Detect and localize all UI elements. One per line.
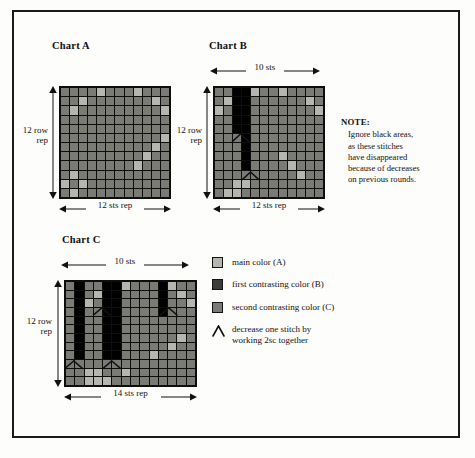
chart-a-sts-label: 12 sts rep bbox=[59, 200, 171, 210]
cell-second-contrasting bbox=[66, 291, 74, 299]
cell-second-contrasting bbox=[115, 125, 123, 133]
cell-second-contrasting bbox=[140, 343, 148, 351]
cell-second-contrasting bbox=[106, 134, 114, 142]
cell-main-color bbox=[177, 291, 185, 299]
cell-second-contrasting bbox=[224, 125, 232, 133]
cell-second-contrasting bbox=[134, 152, 142, 160]
cell-second-contrasting bbox=[106, 97, 114, 105]
cell-second-contrasting bbox=[61, 88, 69, 96]
cell-main-color bbox=[233, 180, 241, 188]
cell-second-contrasting bbox=[168, 334, 176, 342]
cell-second-contrasting bbox=[159, 317, 167, 325]
cell-second-contrasting bbox=[143, 106, 151, 114]
cell-second-contrasting bbox=[315, 88, 323, 96]
cell-second-contrasting bbox=[143, 88, 151, 96]
cell-second-contrasting bbox=[224, 152, 232, 160]
cell-main-color bbox=[242, 180, 250, 188]
cell-second-contrasting bbox=[85, 317, 93, 325]
cell-second-contrasting bbox=[279, 125, 287, 133]
cell-black-area bbox=[103, 343, 111, 351]
chart-a-row-dimension-arrow bbox=[47, 86, 59, 199]
legend-label-decrease-line1: decrease one stitch by bbox=[232, 324, 311, 335]
cell-second-contrasting bbox=[187, 308, 195, 316]
cell-second-contrasting bbox=[215, 189, 223, 197]
cell-second-contrasting bbox=[279, 134, 287, 142]
cell-second-contrasting bbox=[306, 143, 314, 151]
cell-second-contrasting bbox=[152, 189, 160, 197]
cell-second-contrasting bbox=[79, 88, 87, 96]
cell-main-color bbox=[70, 189, 78, 197]
cell-second-contrasting bbox=[112, 377, 120, 385]
cell-main-color bbox=[85, 377, 93, 385]
cell-black-area bbox=[75, 325, 83, 333]
cell-second-contrasting bbox=[150, 369, 158, 377]
cell-second-contrasting bbox=[61, 134, 69, 142]
cell-second-contrasting bbox=[97, 143, 105, 151]
cell-second-contrasting bbox=[269, 180, 277, 188]
cell-second-contrasting bbox=[260, 189, 268, 197]
cell-second-contrasting bbox=[306, 88, 314, 96]
cell-second-contrasting bbox=[61, 116, 69, 124]
cell-second-contrasting bbox=[79, 189, 87, 197]
cell-second-contrasting bbox=[85, 334, 93, 342]
cell-second-contrasting bbox=[150, 308, 158, 316]
cell-second-contrasting bbox=[297, 97, 305, 105]
cell-second-contrasting bbox=[159, 351, 167, 359]
cell-second-contrasting bbox=[131, 343, 139, 351]
cell-black-area bbox=[233, 125, 241, 133]
cell-second-contrasting bbox=[315, 180, 323, 188]
cell-main-color bbox=[103, 377, 111, 385]
cell-second-contrasting bbox=[177, 343, 185, 351]
cell-second-contrasting bbox=[122, 360, 130, 368]
cell-second-contrasting bbox=[161, 180, 169, 188]
cell-second-contrasting bbox=[140, 325, 148, 333]
cell-second-contrasting bbox=[122, 334, 130, 342]
cell-second-contrasting bbox=[88, 88, 96, 96]
cell-second-contrasting bbox=[168, 360, 176, 368]
cell-main-color bbox=[279, 152, 287, 160]
cell-second-contrasting bbox=[177, 377, 185, 385]
cell-second-contrasting bbox=[260, 116, 268, 124]
cell-second-contrasting bbox=[131, 291, 139, 299]
note-line-2: as these stitches bbox=[348, 141, 420, 152]
cell-black-area bbox=[159, 308, 167, 316]
cell-black-area bbox=[233, 106, 241, 114]
cell-second-contrasting bbox=[143, 116, 151, 124]
cell-second-contrasting bbox=[97, 161, 105, 169]
cell-second-contrasting bbox=[233, 143, 241, 151]
cell-second-contrasting bbox=[70, 152, 78, 160]
diagram-frame: Chart A 12 row rep 12 sts rep Chart bbox=[12, 10, 460, 438]
cell-main-color bbox=[97, 88, 105, 96]
cell-second-contrasting bbox=[251, 143, 259, 151]
cell-second-contrasting bbox=[140, 308, 148, 316]
cell-main-color bbox=[70, 106, 78, 114]
cell-second-contrasting bbox=[143, 171, 151, 179]
cell-second-contrasting bbox=[115, 152, 123, 160]
cell-second-contrasting bbox=[94, 325, 102, 333]
cell-second-contrasting bbox=[61, 125, 69, 133]
cell-second-contrasting bbox=[306, 106, 314, 114]
cell-second-contrasting bbox=[315, 189, 323, 197]
cell-second-contrasting bbox=[122, 325, 130, 333]
cell-second-contrasting bbox=[177, 360, 185, 368]
cell-second-contrasting bbox=[150, 334, 158, 342]
legend-item-decrease: decrease one stitch by working 2sc toget… bbox=[212, 324, 442, 347]
cell-second-contrasting bbox=[269, 171, 277, 179]
cell-second-contrasting bbox=[297, 88, 305, 96]
cell-second-contrasting bbox=[70, 97, 78, 105]
cell-second-contrasting bbox=[103, 360, 111, 368]
cell-second-contrasting bbox=[140, 317, 148, 325]
cell-second-contrasting bbox=[279, 97, 287, 105]
cell-second-contrasting bbox=[106, 171, 114, 179]
cell-second-contrasting bbox=[97, 180, 105, 188]
cell-second-contrasting bbox=[260, 88, 268, 96]
cell-main-color bbox=[288, 161, 296, 169]
cell-second-contrasting bbox=[306, 161, 314, 169]
chart-c-row-label: 12 row rep bbox=[12, 316, 52, 336]
cell-main-color bbox=[85, 369, 93, 377]
cell-black-area bbox=[242, 97, 250, 105]
cell-second-contrasting bbox=[106, 116, 114, 124]
cell-second-contrasting bbox=[297, 161, 305, 169]
cell-main-color bbox=[177, 334, 185, 342]
cell-second-contrasting bbox=[168, 351, 176, 359]
